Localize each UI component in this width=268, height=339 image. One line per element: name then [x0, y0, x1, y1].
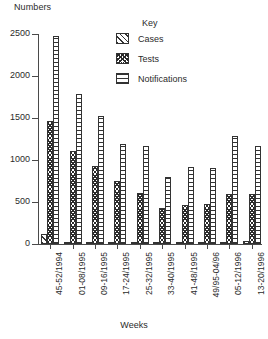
x-tick-label: 41-48/1995: [189, 252, 199, 295]
bar-notifications: [255, 146, 261, 244]
x-tick-mark: [140, 244, 141, 249]
x-tick-mark: [117, 244, 118, 249]
y-tick-mark: [32, 76, 38, 77]
x-tick-mark: [73, 244, 74, 249]
legend: Key CasesTestsNotifications: [116, 18, 256, 93]
y-axis-title: Numbers: [14, 2, 51, 12]
x-tick-mark: [185, 244, 186, 249]
y-tick-label: 500: [0, 196, 30, 206]
legend-entry: Notifications: [116, 73, 256, 84]
y-tick-mark: [32, 118, 38, 119]
y-tick-label: 1000: [0, 154, 30, 164]
x-tick-label: 09-16/1995: [99, 252, 109, 295]
bar-notifications: [98, 116, 104, 244]
legend-label: Notifications: [138, 74, 187, 84]
x-tick-label: 25-32/1995: [144, 252, 154, 295]
x-tick-mark: [162, 244, 163, 249]
y-tick-mark: [32, 34, 38, 35]
x-tick-label: 45-52/1994: [54, 252, 64, 295]
bar-notifications: [188, 167, 194, 244]
legend-title: Key: [142, 18, 256, 28]
y-tick-label: 2000: [0, 70, 30, 80]
x-tick-mark: [252, 244, 253, 249]
bar-notifications: [165, 177, 171, 244]
bar-chart: Numbers 05001000150020002500 45-52/19940…: [0, 0, 268, 339]
horizontal-hatch-swatch: [116, 73, 129, 84]
legend-entry: Tests: [116, 53, 256, 64]
bar-group: [64, 34, 82, 244]
legend-label: Cases: [138, 34, 164, 44]
bar-notifications: [143, 146, 149, 244]
x-tick-label: 17-24/1995: [121, 252, 131, 295]
x-axis-line: [38, 244, 262, 245]
bar-notifications: [53, 36, 59, 244]
bar-group: [86, 34, 104, 244]
x-tick-mark: [229, 244, 230, 249]
x-tick-label: 01-08/1995: [77, 252, 87, 295]
bar-notifications: [120, 144, 126, 244]
x-tick-label: 49/95-04/96: [211, 252, 221, 297]
y-tick-mark: [32, 202, 38, 203]
x-tick-label: 05-12/1996: [233, 252, 243, 295]
y-tick-mark: [32, 160, 38, 161]
x-tick-mark: [207, 244, 208, 249]
diagonal-hatch-swatch: [116, 33, 129, 44]
x-tick-mark: [50, 244, 51, 249]
legend-entries: CasesTestsNotifications: [116, 33, 256, 84]
bar-group: [41, 34, 59, 244]
x-axis-title: Weeks: [0, 320, 268, 330]
legend-label: Tests: [138, 54, 159, 64]
bar-notifications: [76, 94, 82, 244]
x-tick-label: 13-20/1996: [256, 252, 266, 295]
y-tick-mark: [32, 244, 38, 245]
y-tick-label: 0: [0, 238, 30, 248]
bar-notifications: [232, 136, 238, 244]
cross-hatch-swatch: [116, 53, 129, 64]
x-tick-mark: [95, 244, 96, 249]
y-axis-line: [38, 34, 39, 245]
y-tick-label: 1500: [0, 112, 30, 122]
legend-entry: Cases: [116, 33, 256, 44]
bar-notifications: [210, 168, 216, 244]
y-tick-label: 2500: [0, 28, 30, 38]
x-tick-label: 33-40/1995: [166, 252, 176, 295]
